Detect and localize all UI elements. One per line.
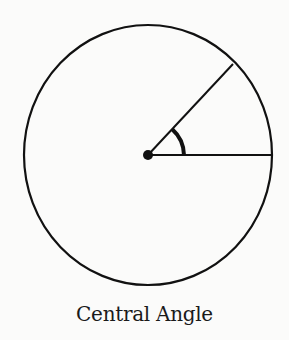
center-point [143, 150, 153, 160]
central-angle-arc [172, 129, 184, 155]
central-angle-diagram [0, 0, 289, 340]
diagonal-radius [148, 64, 233, 155]
diagram-caption: Central Angle [0, 302, 289, 326]
